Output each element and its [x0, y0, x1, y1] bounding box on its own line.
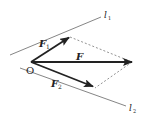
force-diagram: O F F 1 F 2 l 1 l 2	[0, 0, 147, 114]
dashed-side-2	[95, 62, 132, 88]
label-f2-sub: 2	[58, 83, 62, 90]
line-l1	[10, 17, 101, 55]
label-origin: O	[26, 65, 34, 76]
label-l1: l	[104, 10, 107, 20]
label-l1-sub: 1	[108, 15, 111, 21]
label-l2: l	[129, 103, 132, 113]
label-l2-sub: 2	[133, 108, 136, 114]
vector-f1	[31, 38, 69, 63]
line-l2	[20, 68, 126, 106]
label-f1-sub: 1	[46, 43, 50, 50]
label-f: F	[75, 51, 84, 62]
